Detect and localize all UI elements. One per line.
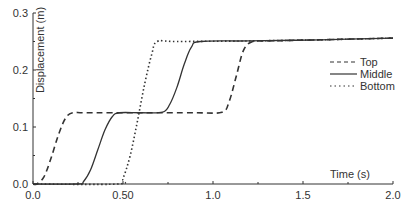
axes: 0.00.501.01.52.0 0.00.10.20.3 Time (s) D… xyxy=(13,7,401,201)
series-line-middle xyxy=(33,38,393,184)
series-line-top xyxy=(33,38,393,184)
x-tick-label: 2.0 xyxy=(385,189,400,201)
displacement-chart: 0.00.501.01.52.0 0.00.10.20.3 Time (s) D… xyxy=(0,0,403,206)
x-tick-label: 0.50 xyxy=(112,189,133,201)
x-tick-label: 1.5 xyxy=(295,189,310,201)
x-tick-label: 1.0 xyxy=(205,189,220,201)
x-tick-label: 0.0 xyxy=(25,189,40,201)
y-tick-label: 0.1 xyxy=(13,121,28,133)
y-tick-label: 0.3 xyxy=(13,7,28,19)
legend: TopMiddleBottom xyxy=(330,56,395,92)
x-axis-title: Time (s) xyxy=(330,168,370,180)
y-tick-label: 0.0 xyxy=(13,178,28,190)
y-axis-title: Displacement (m) xyxy=(34,7,46,93)
legend-label-bottom: Bottom xyxy=(360,80,395,92)
series-line-bottom xyxy=(33,38,393,184)
plot-area xyxy=(33,38,393,184)
legend-label-middle: Middle xyxy=(360,68,392,80)
legend-label-top: Top xyxy=(360,56,378,68)
y-tick-label: 0.2 xyxy=(13,64,28,76)
